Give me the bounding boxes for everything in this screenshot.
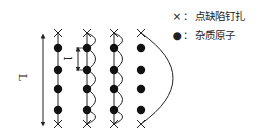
dot-icon [83, 106, 91, 114]
impurity-atoms [54, 44, 145, 114]
dot-icon [110, 106, 118, 114]
dot-icon [83, 44, 91, 52]
length-label: L [16, 74, 29, 81]
dot-icon [137, 106, 145, 114]
dot-icon [54, 85, 62, 93]
dot-icon [137, 85, 145, 93]
dot-icon [110, 44, 118, 52]
dot-icon [54, 66, 62, 74]
legend-item-impurity: ● ： 杂质原子 [171, 27, 235, 42]
dot-icon [54, 44, 62, 52]
dot-icon [110, 66, 118, 74]
dot-icon [54, 106, 62, 114]
cross-icon [137, 120, 145, 128]
legend-label: 杂质原子 [195, 27, 235, 42]
spacing-label: l [61, 57, 74, 61]
dot-icon [110, 85, 118, 93]
dot-icon [137, 44, 145, 52]
dot-icon: ● [171, 29, 183, 41]
dot-icon [83, 66, 91, 74]
pin-markers [54, 29, 145, 128]
cross-icon: × [171, 10, 183, 22]
legend-item-pin: × ： 点缺陷钉扎 [171, 8, 245, 23]
cross-icon [137, 29, 145, 37]
legend-label: 点缺陷钉扎 [195, 8, 245, 23]
dot-icon [83, 85, 91, 93]
dot-icon [137, 66, 145, 74]
column-large-bow [141, 33, 173, 124]
